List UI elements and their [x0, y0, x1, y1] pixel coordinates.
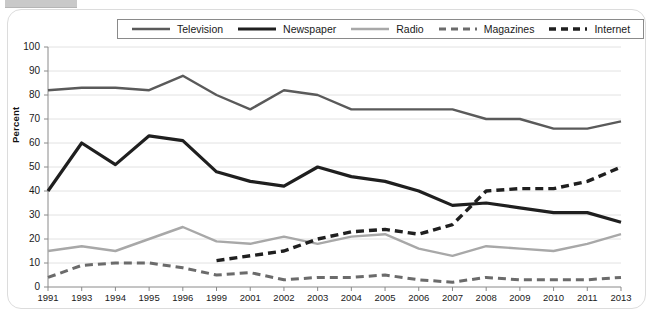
- chart-legend: TelevisionNewspaperRadioMagazinesInterne…: [117, 19, 644, 39]
- x-tick-label-2013: 2013: [610, 292, 631, 303]
- chart-plot-area: [0, 0, 654, 321]
- y-tick-label-80: 80: [14, 89, 40, 100]
- x-tick-label-2003: 2003: [307, 292, 328, 303]
- y-tick-label-70: 70: [14, 113, 40, 124]
- legend-swatch-internet-icon: [548, 24, 588, 34]
- legend-label: Television: [177, 24, 223, 35]
- legend-label: Newspaper: [283, 24, 336, 35]
- x-tick-label-2007: 2007: [442, 292, 463, 303]
- x-tick-label-2005: 2005: [374, 292, 395, 303]
- x-tick-label-2001: 2001: [240, 292, 261, 303]
- x-tick-label-2006: 2006: [408, 292, 429, 303]
- x-tick-label-2009: 2009: [509, 292, 530, 303]
- x-tick-label-1991: 1991: [37, 292, 58, 303]
- y-tick-label-0: 0: [14, 281, 40, 292]
- x-tick-label-1994: 1994: [105, 292, 126, 303]
- legend-item-internet[interactable]: Internet: [548, 24, 630, 35]
- x-tick-label-1996: 1996: [172, 292, 193, 303]
- y-tick-label-10: 10: [14, 257, 40, 268]
- legend-label: Radio: [396, 24, 423, 35]
- legend-item-television[interactable]: Television: [131, 24, 223, 35]
- y-tick-label-30: 30: [14, 209, 40, 220]
- chart-page: TelevisionNewspaperRadioMagazinesInterne…: [0, 0, 654, 321]
- y-tick-label-100: 100: [14, 41, 40, 52]
- x-tick-label-2002: 2002: [273, 292, 294, 303]
- y-tick-label-90: 90: [14, 65, 40, 76]
- legend-swatch-magazines-icon: [438, 24, 478, 34]
- legend-swatch-newspaper-icon: [237, 24, 277, 34]
- x-tick-label-2008: 2008: [476, 292, 497, 303]
- x-tick-label-2004: 2004: [341, 292, 362, 303]
- x-tick-label-1999: 1999: [206, 292, 227, 303]
- x-tick-label-2010: 2010: [543, 292, 564, 303]
- legend-item-newspaper[interactable]: Newspaper: [237, 24, 336, 35]
- legend-swatch-television-icon: [131, 24, 171, 34]
- line-chart-svg: [0, 0, 654, 321]
- x-tick-label-1995: 1995: [139, 292, 160, 303]
- y-tick-label-20: 20: [14, 233, 40, 244]
- y-tick-label-60: 60: [14, 137, 40, 148]
- x-tick-label-2011: 2011: [577, 292, 597, 303]
- legend-label: Internet: [594, 24, 630, 35]
- y-tick-label-40: 40: [14, 185, 40, 196]
- legend-swatch-radio-icon: [350, 24, 390, 34]
- legend-label: Magazines: [484, 24, 535, 35]
- legend-item-magazines[interactable]: Magazines: [438, 24, 535, 35]
- y-tick-label-50: 50: [14, 161, 40, 172]
- legend-item-radio[interactable]: Radio: [350, 24, 423, 35]
- x-tick-label-1993: 1993: [71, 292, 92, 303]
